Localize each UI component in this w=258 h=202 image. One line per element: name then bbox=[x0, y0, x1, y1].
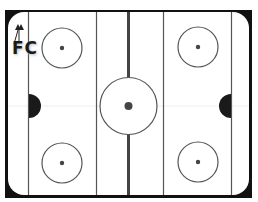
center-faceoff-dot bbox=[125, 102, 133, 110]
logo-text: FC bbox=[12, 40, 38, 57]
faceoff-dot-bottom-right bbox=[196, 160, 200, 164]
faceoff-dot-bottom-left bbox=[60, 161, 64, 165]
fc-logo: FC bbox=[10, 22, 44, 62]
faceoff-dot-top-left bbox=[60, 46, 64, 50]
faceoff-dot-top-right bbox=[196, 45, 200, 49]
